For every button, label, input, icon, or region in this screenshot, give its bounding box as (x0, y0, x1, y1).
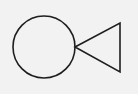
diagram-canvas (0, 0, 138, 94)
background (0, 0, 138, 94)
diagram-svg (0, 0, 138, 94)
